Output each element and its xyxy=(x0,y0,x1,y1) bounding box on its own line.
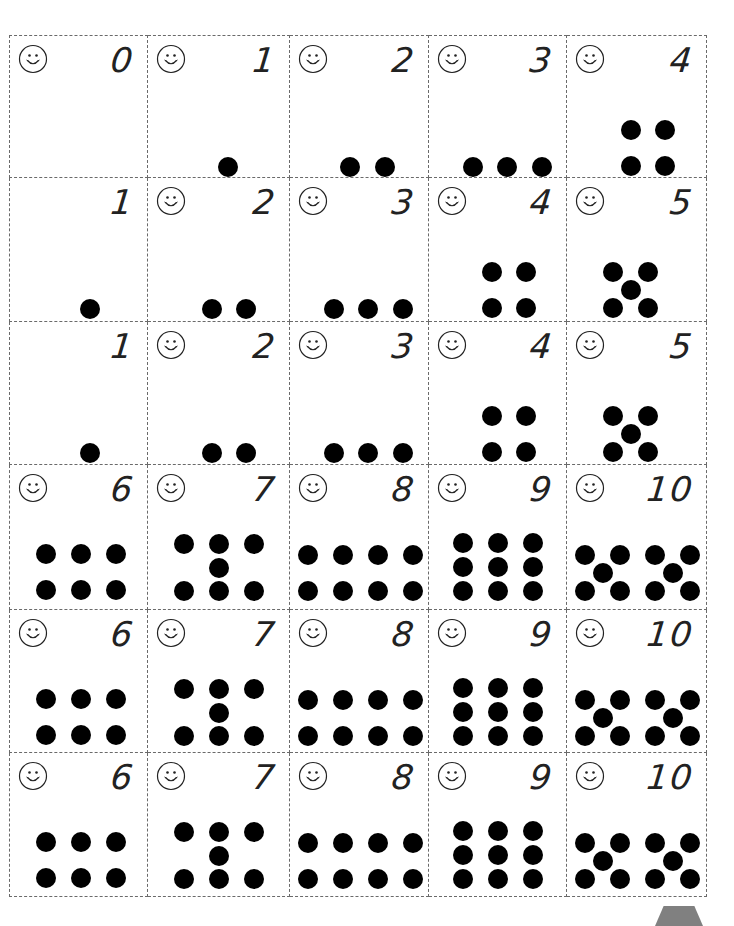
dot xyxy=(298,726,318,746)
number-card-8[interactable]: 8 xyxy=(290,465,429,610)
number-card-7[interactable]: 7 xyxy=(148,753,290,897)
dot xyxy=(488,581,508,601)
number-card-7[interactable]: 7 xyxy=(148,610,290,753)
number-card-10[interactable]: 10 xyxy=(567,465,707,610)
number-card-5[interactable]: 5 xyxy=(567,178,707,322)
dot xyxy=(453,557,473,577)
dot xyxy=(174,869,194,889)
dot xyxy=(523,821,543,841)
dot xyxy=(603,262,623,282)
number-card-3[interactable]: 3 xyxy=(290,322,429,465)
dot xyxy=(244,822,264,842)
number-card-9[interactable]: 9 xyxy=(429,610,567,753)
number-card-6[interactable]: 6 xyxy=(9,465,148,610)
dot xyxy=(645,581,665,601)
dot-pattern xyxy=(290,753,428,896)
dot xyxy=(610,726,630,746)
dot xyxy=(523,557,543,577)
number-card-8[interactable]: 8 xyxy=(290,610,429,753)
dot xyxy=(575,690,595,710)
number-card-0[interactable]: 0 xyxy=(9,35,148,178)
dot xyxy=(482,406,502,426)
number-card-2[interactable]: 2 xyxy=(148,322,290,465)
dot xyxy=(209,869,229,889)
dot xyxy=(453,869,473,889)
number-card-4[interactable]: 4 xyxy=(429,322,567,465)
number-card-10[interactable]: 10 xyxy=(567,610,707,753)
dot-pattern xyxy=(290,610,428,752)
dot xyxy=(663,708,683,728)
dot xyxy=(375,157,395,177)
dot xyxy=(209,822,229,842)
dot xyxy=(482,298,502,318)
dot xyxy=(368,869,388,889)
dot xyxy=(333,869,353,889)
dot xyxy=(638,442,658,462)
dot xyxy=(593,563,613,583)
dot xyxy=(655,120,675,140)
dot xyxy=(680,690,700,710)
number-card-3[interactable]: 3 xyxy=(290,178,429,322)
number-card-3[interactable]: 3 xyxy=(429,35,567,178)
number-card-9[interactable]: 9 xyxy=(429,753,567,897)
number-card-1[interactable]: 1 xyxy=(9,322,148,465)
dot xyxy=(488,702,508,722)
dot xyxy=(202,443,222,463)
dot xyxy=(403,690,423,710)
dot xyxy=(403,545,423,565)
dot xyxy=(463,157,483,177)
dot xyxy=(488,845,508,865)
dot xyxy=(621,120,641,140)
number-card-6[interactable]: 6 xyxy=(9,753,148,897)
dot xyxy=(244,679,264,699)
number-card-4[interactable]: 4 xyxy=(567,35,707,178)
dot-pattern xyxy=(290,322,428,464)
dot xyxy=(368,690,388,710)
dot xyxy=(333,833,353,853)
dot xyxy=(575,545,595,565)
dot xyxy=(80,299,100,319)
dot xyxy=(36,868,56,888)
dot xyxy=(236,443,256,463)
dot xyxy=(488,678,508,698)
dot xyxy=(575,833,595,853)
dot xyxy=(36,544,56,564)
dot xyxy=(209,846,229,866)
dot-pattern xyxy=(10,36,147,177)
number-card-6[interactable]: 6 xyxy=(9,610,148,753)
dot xyxy=(523,678,543,698)
number-card-8[interactable]: 8 xyxy=(290,753,429,897)
dot xyxy=(593,708,613,728)
dot-pattern xyxy=(429,36,566,177)
number-card-1[interactable]: 1 xyxy=(9,178,148,322)
dot xyxy=(36,689,56,709)
dot xyxy=(593,851,613,871)
dot xyxy=(36,832,56,852)
number-card-10[interactable]: 10 xyxy=(567,753,707,897)
dot xyxy=(71,689,91,709)
dot-pattern xyxy=(567,610,706,752)
dot xyxy=(488,869,508,889)
dot xyxy=(453,678,473,698)
dot-pattern xyxy=(290,178,428,321)
dot xyxy=(516,298,536,318)
number-card-2[interactable]: 2 xyxy=(290,35,429,178)
dot xyxy=(523,533,543,553)
number-card-1[interactable]: 1 xyxy=(148,35,290,178)
dot xyxy=(236,299,256,319)
number-card-7[interactable]: 7 xyxy=(148,465,290,610)
number-card-4[interactable]: 4 xyxy=(429,178,567,322)
dot xyxy=(638,406,658,426)
number-card-5[interactable]: 5 xyxy=(567,322,707,465)
dot xyxy=(36,725,56,745)
number-card-2[interactable]: 2 xyxy=(148,178,290,322)
dot xyxy=(298,581,318,601)
dot xyxy=(298,869,318,889)
dot xyxy=(340,157,360,177)
dot xyxy=(298,545,318,565)
dot xyxy=(368,545,388,565)
dot xyxy=(645,545,665,565)
dot xyxy=(575,581,595,601)
dot xyxy=(680,869,700,889)
number-card-9[interactable]: 9 xyxy=(429,465,567,610)
